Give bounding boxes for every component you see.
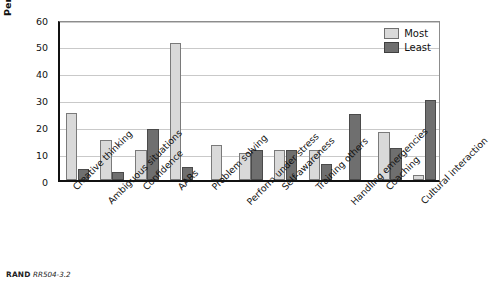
bar-most — [413, 175, 425, 180]
footer-org: RAND — [6, 270, 31, 279]
y-tick-label: 30 — [22, 97, 48, 106]
bar-least — [112, 172, 124, 180]
legend-label-most: Most — [404, 29, 428, 39]
most-swatch-icon — [384, 28, 399, 39]
least-swatch-icon — [384, 42, 399, 53]
bar-group — [199, 22, 234, 180]
legend: Most Least — [384, 28, 431, 56]
bar-most — [66, 113, 78, 180]
y-tick-label: 50 — [22, 43, 48, 52]
legend-item-most: Most — [384, 28, 431, 39]
legend-label-least: Least — [404, 43, 431, 53]
y-tick-label: 10 — [22, 151, 48, 160]
legend-item-least: Least — [384, 42, 431, 53]
x-axis-labels: Creative thinkingAmbiguous situationsCon… — [0, 183, 460, 265]
y-tick-label: 20 — [22, 124, 48, 133]
bar-least — [425, 100, 437, 181]
footer-figure-id: RR504-3.2 — [33, 270, 71, 279]
bar-group — [60, 22, 95, 180]
y-tick-label: 40 — [22, 70, 48, 79]
figure-source-note: RAND RR504-3.2 — [6, 270, 71, 279]
y-tick-label: 60 — [22, 17, 48, 26]
